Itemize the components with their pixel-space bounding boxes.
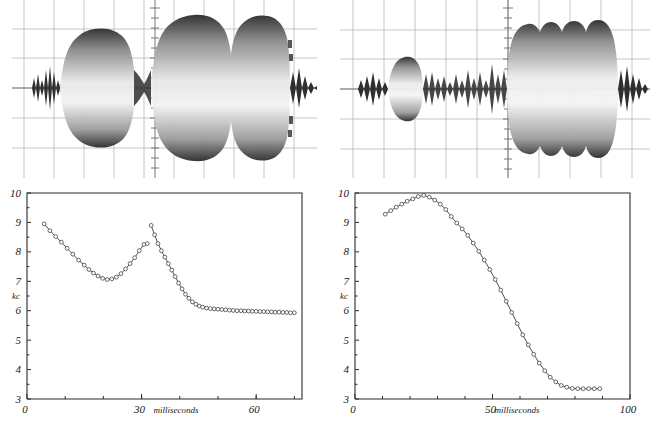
data-point-marker <box>114 275 118 279</box>
data-point-marker <box>96 274 100 278</box>
scope-graticule-left <box>12 0 317 178</box>
data-point-marker <box>510 311 514 315</box>
data-point-marker <box>65 246 69 250</box>
data-point-marker <box>166 262 170 266</box>
data-point-marker <box>292 311 296 315</box>
data-point-marker <box>559 384 563 388</box>
data-point-marker <box>145 242 149 246</box>
y-tick-label: 7 <box>16 275 22 287</box>
data-point-marker <box>565 385 569 389</box>
y-tick-label: 6 <box>16 304 22 316</box>
oscillogram-left <box>12 0 317 178</box>
y-tick-label: 4 <box>344 363 350 375</box>
data-point-marker <box>87 268 91 272</box>
data-point-marker <box>515 322 519 326</box>
data-point-marker <box>105 278 109 282</box>
y-tick-label: 10 <box>338 187 350 199</box>
data-point-marker <box>460 227 464 231</box>
data-point-marker <box>250 309 254 313</box>
data-point-marker <box>235 309 239 313</box>
data-point-marker <box>570 387 574 391</box>
data-curve <box>44 224 147 280</box>
data-point-marker <box>92 271 96 275</box>
data-point-marker <box>400 202 404 206</box>
data-point-marker <box>101 276 105 280</box>
chart-right: 345678910kc050100milliseconds <box>327 180 654 423</box>
data-point-marker <box>471 241 475 245</box>
data-curve <box>385 195 600 388</box>
data-point-marker <box>153 233 157 237</box>
data-point-marker <box>488 268 492 272</box>
data-point-marker <box>224 308 228 312</box>
data-point-marker <box>277 310 281 314</box>
data-point-marker <box>592 387 596 391</box>
data-point-marker <box>389 209 393 213</box>
data-point-marker <box>521 333 525 337</box>
data-point-marker <box>405 199 409 203</box>
data-point-marker <box>184 292 188 296</box>
data-point-marker <box>231 309 235 313</box>
x-tick-label: 0 <box>22 403 28 415</box>
data-point-marker <box>110 277 114 281</box>
x-tick-label: 30 <box>133 403 146 415</box>
data-point-marker <box>133 256 137 260</box>
chart-left: 345678910kc03060milliseconds <box>0 180 327 423</box>
data-point-marker <box>285 311 289 315</box>
x-tick-label: 100 <box>620 403 637 415</box>
data-point-marker <box>504 299 508 303</box>
data-point-marker <box>537 361 541 365</box>
y-tick-label: 3 <box>343 393 350 405</box>
data-point-marker <box>455 221 459 225</box>
data-point-marker <box>422 193 426 197</box>
data-point-marker <box>466 233 470 237</box>
y-tick-label: 6 <box>344 304 350 316</box>
data-point-marker <box>82 263 86 267</box>
data-point-marker <box>444 208 448 212</box>
plot-frame <box>355 193 630 399</box>
data-point-marker <box>42 222 46 226</box>
scope-trace-right <box>358 20 648 158</box>
data-point-marker <box>266 310 270 314</box>
data-point-marker <box>216 307 220 311</box>
data-point-marker <box>177 281 181 285</box>
data-point-marker <box>548 375 552 379</box>
y-tick-label: 8 <box>344 245 350 257</box>
data-point-marker <box>160 249 164 253</box>
data-point-marker <box>254 309 258 313</box>
y-tick-label: 8 <box>16 245 22 257</box>
data-point-marker <box>543 369 547 373</box>
data-point-marker <box>493 278 497 282</box>
y-tick-label: 5 <box>344 334 350 346</box>
x-axis-label: milliseconds <box>154 405 199 415</box>
data-point-marker <box>427 195 431 199</box>
data-point-marker <box>477 249 481 253</box>
data-point-marker <box>205 306 209 310</box>
data-point-marker <box>128 262 132 266</box>
data-point-marker <box>281 311 285 315</box>
data-point-marker <box>190 300 194 304</box>
data-point-marker <box>258 310 262 314</box>
data-point-marker <box>411 197 415 201</box>
x-tick-label: 60 <box>249 403 261 415</box>
y-tick-label: 5 <box>16 334 22 346</box>
data-point-marker <box>554 380 558 384</box>
data-point-marker <box>247 309 251 313</box>
data-point-marker <box>187 296 191 300</box>
data-point-marker <box>587 387 591 391</box>
data-point-marker <box>119 272 123 276</box>
y-tick-label: 3 <box>15 393 22 405</box>
data-point-marker <box>394 205 398 209</box>
data-point-marker <box>270 310 274 314</box>
data-point-marker <box>576 387 580 391</box>
y-tick-label: 10 <box>10 187 22 199</box>
data-point-marker <box>201 305 205 309</box>
y-axis-label: kc <box>340 291 348 301</box>
data-point-marker <box>228 308 232 312</box>
data-point-marker <box>526 343 530 347</box>
data-point-marker <box>173 275 177 279</box>
scope-graticule-right <box>340 0 650 178</box>
y-tick-label: 9 <box>344 216 350 228</box>
data-point-marker <box>598 387 602 391</box>
data-point-marker <box>59 240 63 244</box>
data-point-marker <box>212 307 216 311</box>
